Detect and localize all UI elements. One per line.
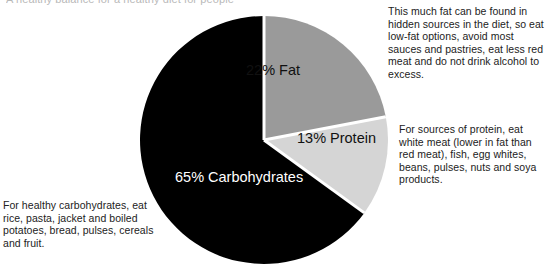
pie-label-fat: 22% Fat: [246, 62, 300, 79]
annotation-carbohydrates: For healthy carbohydrates, eat rice, pas…: [3, 199, 161, 249]
clipped-heading-text: A healthy balance for a healthy diet for…: [6, 0, 266, 5]
chart-figure: A healthy balance for a healthy diet for…: [0, 0, 550, 272]
annotation-fat: This much fat can be found in hidden sou…: [388, 5, 548, 81]
annotation-protein: For sources of protein, eat white meat (…: [399, 123, 545, 186]
pie-label-protein: 13% Protein: [297, 130, 376, 147]
pie-label-carbohydrates: 65% Carbohydrates: [175, 169, 303, 186]
